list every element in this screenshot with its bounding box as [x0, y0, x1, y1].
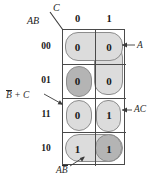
cell-10-1: 1 — [94, 143, 125, 155]
row-header-11: 11 — [34, 109, 58, 119]
annotation-plus-c-text: + C — [12, 90, 30, 100]
row-header-10: 10 — [34, 143, 58, 153]
grid-horizontal-divider-3 — [63, 132, 126, 133]
cell-01-1: 0 — [94, 75, 125, 87]
row-variable-label: AB — [27, 15, 39, 26]
column-variable-label: C — [53, 2, 60, 13]
cell-01-0: 0 — [62, 75, 93, 87]
grid-horizontal-divider-1 — [63, 64, 126, 65]
annotation-group-ac: AC — [134, 104, 146, 114]
annotation-group-bbar-plus-c: B + C — [6, 90, 29, 101]
column-header-1: 1 — [94, 13, 125, 24]
annotation-bbar-overbar-text-2: B — [62, 165, 68, 176]
row-header-01: 01 — [34, 75, 58, 85]
cell-00-0: 0 — [62, 41, 93, 53]
karnaugh-map-figure: C AB 0 1 00 01 11 10 0 0 0 0 0 1 1 1 A A… — [0, 0, 163, 179]
cell-11-0: 0 — [62, 109, 93, 121]
cell-10-0: 1 — [62, 143, 93, 155]
annotation-group-a-bbar: AB — [56, 165, 68, 176]
grid-horizontal-divider-2 — [63, 98, 126, 99]
annotation-group-a: A — [137, 40, 143, 50]
row-header-00: 00 — [34, 41, 58, 51]
column-header-0: 0 — [62, 13, 93, 24]
leader-line-bbar-c — [44, 94, 62, 104]
cell-00-1: 0 — [94, 41, 125, 53]
cell-11-1: 1 — [94, 109, 125, 121]
